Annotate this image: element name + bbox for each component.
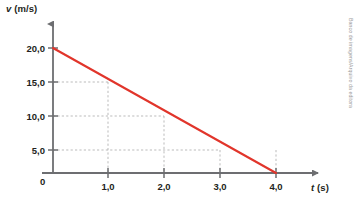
origin-label: 0	[40, 176, 45, 187]
chart-canvas	[0, 0, 362, 205]
image-credit: Banco de imagens/Arquivo da editora	[348, 18, 361, 188]
tick-marks	[48, 48, 276, 178]
velocity-time-graph-figure: v (m/s) t (s) 0 20,0 15,0 10,0 5,0 1,0 2…	[0, 0, 362, 205]
y-tick-label-15: 15,0	[5, 77, 45, 88]
x-axis-unit: (s)	[314, 182, 329, 193]
y-axis-title: v (m/s)	[6, 3, 37, 14]
y-axis-unit: (m/s)	[11, 3, 37, 14]
x-tick-label-3: 3,0	[213, 181, 226, 192]
y-tick-label-10: 10,0	[5, 111, 45, 122]
velocity-data-line	[53, 48, 276, 173]
y-tick-label-5: 5,0	[5, 145, 45, 156]
y-tick-label-20: 20,0	[5, 43, 45, 54]
x-tick-label-1: 1,0	[101, 181, 114, 192]
x-axis-title: t (s)	[311, 182, 329, 193]
grid-lines	[53, 82, 276, 173]
axes	[42, 24, 318, 173]
x-tick-label-4: 4,0	[269, 181, 282, 192]
image-credit-text: Banco de imagens/Arquivo da editora	[344, 18, 357, 31]
x-tick-label-2: 2,0	[157, 181, 170, 192]
